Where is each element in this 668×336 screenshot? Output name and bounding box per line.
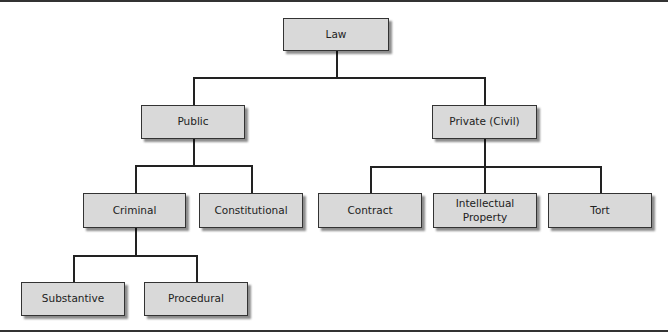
connector <box>73 255 197 257</box>
node-procedural: Procedural <box>144 282 248 316</box>
node-tort: Tort <box>548 193 652 228</box>
node-contract: Contract <box>318 193 422 228</box>
connector <box>370 166 601 168</box>
top-rule <box>0 0 668 2</box>
node-intellectual-property: Intellectual Property <box>433 193 537 228</box>
connector <box>370 166 372 193</box>
node-constitutional: Constitutional <box>199 193 303 228</box>
node-criminal: Criminal <box>83 193 186 228</box>
connector <box>251 165 253 193</box>
connector <box>193 138 195 166</box>
connector <box>336 50 338 78</box>
connector <box>196 255 198 282</box>
connector <box>135 165 252 167</box>
connector <box>600 166 602 193</box>
node-law: Law <box>283 18 389 51</box>
connector <box>135 165 137 193</box>
node-private-civil: Private (Civil) <box>432 105 537 139</box>
connector <box>73 255 75 282</box>
node-public: Public <box>141 105 245 139</box>
connector <box>193 77 195 105</box>
connector <box>135 228 137 255</box>
node-substantive: Substantive <box>21 282 125 316</box>
bottom-rule <box>0 330 668 332</box>
connector <box>193 77 485 79</box>
connector <box>484 77 486 105</box>
